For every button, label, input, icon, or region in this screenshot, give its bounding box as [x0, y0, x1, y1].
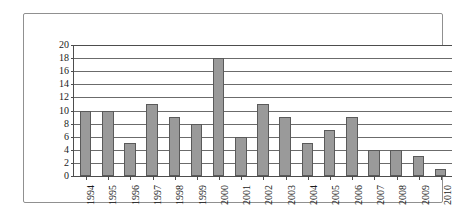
chart-frame: 02468101214161820 1994199519961997199819… [23, 13, 443, 203]
bar[interactable] [235, 137, 247, 176]
y-axis-tick-label: 2 [64, 158, 69, 168]
bar[interactable] [346, 117, 358, 176]
bar[interactable] [169, 117, 181, 176]
x-axis-label-slot: 2009 [408, 181, 430, 215]
x-axis-tick-label: 2004 [308, 185, 319, 205]
x-axis-tick-mark [108, 176, 109, 180]
bar-category [408, 45, 430, 176]
bar-category [97, 45, 119, 176]
y-axis-tick-mark [71, 137, 74, 138]
x-axis-tick-label: 2003 [286, 185, 297, 205]
x-axis-label-slot: 1996 [119, 181, 141, 215]
x-axis-tick-label: 2002 [263, 185, 274, 205]
x-axis-tick-label: 2006 [353, 185, 364, 205]
x-axis-label-slot: 2002 [252, 181, 274, 215]
x-axis-label-slot: 2003 [275, 181, 297, 215]
y-axis-tick-label: 10 [59, 106, 69, 116]
bar-category [430, 45, 452, 176]
bar[interactable] [124, 143, 136, 176]
y-axis-tick-label: 16 [59, 66, 69, 76]
bar[interactable] [279, 117, 291, 176]
x-axis-label-slot: 2008 [386, 181, 408, 215]
y-axis-tick-label: 12 [59, 92, 69, 102]
x-axis-label-slot: 2007 [364, 181, 386, 215]
y-axis-tick-mark [71, 150, 74, 151]
bar[interactable] [390, 150, 402, 176]
y-axis-tick-mark [71, 97, 74, 98]
x-axis-tick-mark [330, 176, 331, 180]
bar[interactable] [191, 124, 203, 176]
bar-category [297, 45, 319, 176]
x-axis-label-slot: 1999 [185, 181, 207, 215]
x-axis-tick-mark [441, 176, 442, 180]
bar-series [75, 45, 452, 176]
y-axis-tick-label: 20 [59, 40, 69, 50]
bar-category [275, 45, 297, 176]
bar-category [164, 45, 186, 176]
x-axis-tick-label: 2008 [397, 185, 408, 205]
y-axis-tick-mark [71, 111, 74, 112]
y-axis-tick-mark [71, 163, 74, 164]
x-axis-label-slot: 2006 [342, 181, 364, 215]
bar-category [119, 45, 141, 176]
x-axis-tick-mark [130, 176, 131, 180]
x-axis-tick-mark [286, 176, 287, 180]
bar[interactable] [146, 104, 158, 176]
plot-area: 02468101214161820 [73, 45, 452, 177]
x-axis-label-slot: 2004 [297, 181, 319, 215]
x-axis-label-slot: 1994 [74, 181, 96, 215]
x-axis-tick-mark [352, 176, 353, 180]
bar-category [252, 45, 274, 176]
x-axis-tick-label: 1998 [174, 185, 185, 205]
bar-category [385, 45, 407, 176]
x-axis-tick-label: 2009 [420, 185, 431, 205]
y-axis-tick-mark [71, 84, 74, 85]
x-axis-tick-label: 1995 [107, 185, 118, 205]
y-axis-tick-label: 18 [59, 53, 69, 63]
x-axis-tick-label: 2000 [219, 185, 230, 205]
x-axis-tick-mark [419, 176, 420, 180]
x-axis-tick-mark [219, 176, 220, 180]
x-axis-tick-label: 2005 [330, 185, 341, 205]
x-axis-tick-label: 2010 [442, 185, 453, 205]
x-axis-tick-mark [175, 176, 176, 180]
x-axis-label-slot: 2001 [230, 181, 252, 215]
x-axis-tick-mark [153, 176, 154, 180]
x-axis-tick-mark [241, 176, 242, 180]
x-axis-tick-label: 2007 [375, 185, 386, 205]
x-axis-label-slot: 2000 [208, 181, 230, 215]
bar-category [142, 45, 164, 176]
bar[interactable] [213, 58, 225, 176]
y-axis-tick-mark [71, 45, 74, 46]
x-axis-tick-label: 1994 [85, 185, 96, 205]
y-axis-tick-label: 14 [59, 79, 69, 89]
y-axis-tick-mark [71, 124, 74, 125]
y-axis-tick-label: 4 [64, 145, 69, 155]
bar-category [363, 45, 385, 176]
x-axis-tick-mark [397, 176, 398, 180]
bar-category [186, 45, 208, 176]
x-axis-label-slot: 1998 [163, 181, 185, 215]
bar-category [319, 45, 341, 176]
y-axis-tick-label: 8 [64, 119, 69, 129]
bar[interactable] [80, 111, 92, 177]
bar-category [208, 45, 230, 176]
bar[interactable] [368, 150, 380, 176]
x-axis-tick-label: 1999 [197, 185, 208, 205]
x-axis-label-slot: 1997 [141, 181, 163, 215]
bar[interactable] [102, 111, 114, 177]
x-axis-label-slot: 1995 [96, 181, 118, 215]
y-axis-tick-mark [71, 176, 74, 177]
bar[interactable] [324, 130, 336, 176]
y-axis-tick-mark [71, 71, 74, 72]
x-axis-labels: 1994199519961997199819992000200120022003… [74, 181, 453, 215]
bar-category [230, 45, 252, 176]
x-axis-tick-label: 2001 [241, 185, 252, 205]
chart-figure: 02468101214161820 1994199519961997199819… [0, 0, 466, 215]
bar-category [341, 45, 363, 176]
x-axis-tick-label: 1997 [152, 185, 163, 205]
bar[interactable] [302, 143, 314, 176]
x-axis-tick-mark [308, 176, 309, 180]
bar[interactable] [257, 104, 269, 176]
bar[interactable] [413, 156, 425, 176]
